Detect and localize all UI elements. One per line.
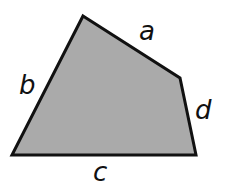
quadrilateral-diagram: a b c d xyxy=(0,0,226,187)
side-label-a: a xyxy=(139,16,155,46)
side-label-d: d xyxy=(195,95,212,125)
side-label-b: b xyxy=(19,70,36,100)
quadrilateral-shape xyxy=(12,16,196,155)
side-label-c: c xyxy=(93,157,107,187)
